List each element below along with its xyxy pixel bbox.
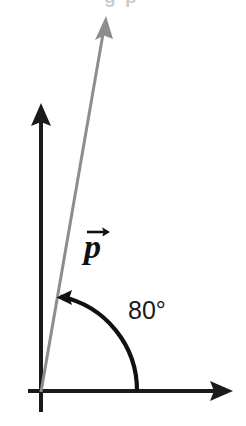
vector-angle-diagram: g p p 80° <box>0 0 246 426</box>
y-axis <box>31 103 51 412</box>
vector-p-label-glyph: p <box>84 230 101 264</box>
vector-p <box>41 16 113 392</box>
angle-arc-path <box>60 297 137 392</box>
x-axis <box>28 381 233 401</box>
angle-arc-80 <box>57 290 138 391</box>
angle-value-label: 80° <box>128 298 166 323</box>
diagram-canvas <box>0 0 246 426</box>
vector-p-label: p <box>82 222 122 270</box>
vector-p-line <box>41 28 104 392</box>
